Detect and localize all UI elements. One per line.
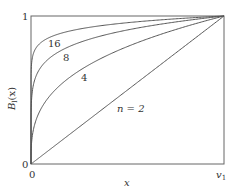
curve-label-16: 16 bbox=[48, 38, 61, 49]
y-axis-label-main: B bbox=[6, 103, 17, 111]
curve-label-8: 8 bbox=[63, 52, 69, 63]
x-tick-v1-sub: 1 bbox=[222, 174, 226, 182]
curve-label-4: 4 bbox=[81, 72, 87, 83]
x-tick-0: 0 bbox=[29, 169, 35, 180]
y-axis-label: Bl(x) bbox=[6, 87, 19, 111]
chart-canvas: 1 0 0 v1 x Bl(x) 16 8 4 n = 2 bbox=[0, 0, 235, 192]
x-tick-v1: v1 bbox=[216, 169, 226, 182]
x-axis-label: x bbox=[124, 177, 130, 188]
y-tick-0: 0 bbox=[22, 159, 28, 170]
y-tick-1: 1 bbox=[22, 11, 28, 22]
curve-label-n2: n = 2 bbox=[117, 103, 145, 114]
y-axis-label-arg: (x) bbox=[6, 87, 17, 101]
curve-label-n2-text: n = 2 bbox=[117, 103, 145, 114]
